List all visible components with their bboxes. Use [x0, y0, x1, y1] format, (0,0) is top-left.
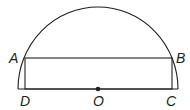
label-a: A [8, 50, 18, 66]
semicircle-arc [18, 7, 178, 89]
center-point-o [96, 87, 101, 92]
label-d: D [20, 93, 30, 109]
rectangle-abcd [25, 58, 172, 89]
label-b: B [176, 50, 185, 66]
geometry-diagram: A B D O C [0, 0, 190, 110]
label-o: O [93, 93, 104, 109]
label-c: C [166, 93, 177, 109]
